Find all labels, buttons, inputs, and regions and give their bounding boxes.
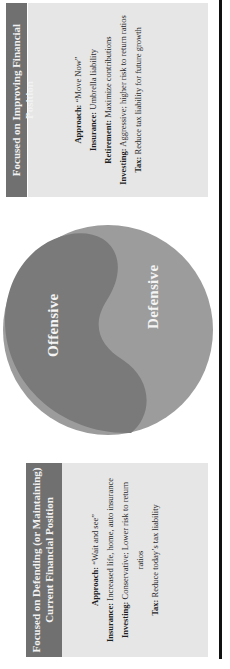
item-label: Retirement:: [103, 120, 113, 164]
item-text: Reduce tax liability for future growth: [133, 27, 143, 156]
defending-title-line2: Current Financial Position: [43, 467, 56, 653]
item-label: Approach:: [73, 105, 83, 144]
improving-box: Focused on Improving Financial Position …: [28, 3, 208, 197]
defending-title-line1: Focused on Defending (or Maintaining): [30, 467, 43, 653]
item-label: Insurance:: [105, 603, 115, 642]
yin-yang-shape: [3, 225, 213, 435]
offensive-label: Offensive: [45, 293, 62, 357]
item-label: Insurance:: [88, 112, 98, 151]
defending-box-body: Approach: “Wait and see” Insurance: Incr…: [62, 463, 163, 657]
item-text: Increased life, home, auto insurance: [105, 478, 115, 603]
defending-item-investing: Investing: Conservative; Lower risk to r…: [118, 473, 148, 647]
item-text: “Wait and see”: [90, 514, 100, 567]
defensive-label: Defensive: [145, 265, 162, 329]
improving-item-investing: Investing: Aggressive; higher risk to re…: [116, 13, 131, 187]
defending-item-insurance: Insurance: Increased life, home, auto in…: [103, 473, 118, 647]
item-label: Approach:: [90, 567, 100, 606]
improving-title: Focused on Improving Financial Position: [10, 7, 36, 193]
improving-box-header: Focused on Improving Financial Position: [6, 3, 27, 197]
defending-box: Focused on Defending (or Maintaining) Cu…: [26, 463, 208, 657]
defending-item-approach: Approach: “Wait and see”: [88, 473, 103, 647]
item-text: Maximize contributions: [103, 36, 113, 120]
improving-item-approach: Approach: “Move Now”: [71, 13, 86, 187]
item-text: Reduce today’s tax liability: [150, 504, 160, 599]
offensive-defensive-circle: Offensive Defensive: [3, 225, 213, 435]
improving-item-tax: Tax: Reduce tax liability for future gro…: [131, 13, 146, 187]
improving-item-retirement: Retirement: Maximize contributions: [101, 13, 116, 187]
rule-line: [219, 0, 222, 659]
defending-box-header: Focused on Defending (or Maintaining) Cu…: [26, 463, 62, 657]
item-label: Tax:: [133, 157, 143, 173]
improving-item-insurance: Insurance: Umbrella liability: [86, 13, 101, 187]
item-text: Umbrella liability: [88, 49, 98, 112]
rotated-diagram-page: Focused on Defending (or Maintaining) Cu…: [0, 0, 230, 669]
item-text: “Move Now”: [73, 56, 83, 104]
item-text: Aggressive; higher risk to return ratios: [118, 15, 128, 148]
item-label: Investing:: [120, 602, 130, 638]
item-text: Conservative; Lower risk to return ratio…: [120, 482, 145, 602]
defending-item-tax: Tax: Reduce today’s tax liability: [148, 473, 163, 647]
item-label: Investing:: [118, 148, 128, 184]
item-label: Tax:: [150, 600, 160, 616]
improving-box-body: Approach: “Move Now” Insurance: Umbrella…: [49, 3, 146, 197]
